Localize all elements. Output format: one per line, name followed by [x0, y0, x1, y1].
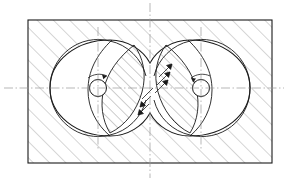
technical-drawing-canvas: [0, 0, 288, 181]
cross-section-drawing: [0, 0, 288, 181]
